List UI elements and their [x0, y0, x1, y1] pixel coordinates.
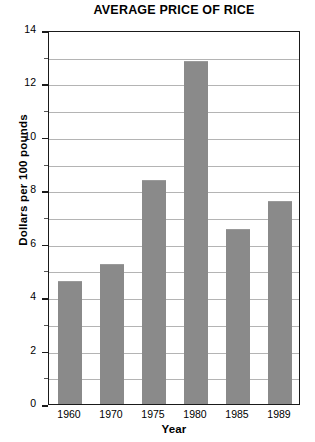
y-tick-label: 8: [30, 184, 36, 195]
x-tick-label-1960: 1960: [57, 408, 80, 420]
bar-1975: [142, 180, 166, 404]
x-tick-label-1975: 1975: [141, 408, 164, 420]
bar-1970: [100, 264, 124, 404]
x-tick-label-1970: 1970: [99, 408, 122, 420]
bar-chart-figure: AVERAGE PRICE OF RICE Dollars per 100 po…: [0, 0, 315, 442]
y-tick-label: 6: [30, 238, 36, 249]
y-tick-mark: [42, 405, 48, 407]
x-tick-label-1985: 1985: [225, 408, 248, 420]
y-axis: 02468101214: [0, 31, 48, 405]
y-tick-label: 12: [24, 77, 36, 88]
bar-1985: [226, 229, 250, 404]
bars-layer: [49, 32, 299, 404]
bar-1980: [184, 61, 208, 404]
y-tick-label: 4: [30, 291, 36, 302]
x-tick-label-1989: 1989: [267, 408, 290, 420]
chart-title: AVERAGE PRICE OF RICE: [48, 3, 300, 18]
y-tick-label: 0: [30, 398, 36, 409]
plot-area: [48, 31, 300, 405]
x-tick-label-1980: 1980: [183, 408, 206, 420]
y-tick-label: 14: [24, 24, 36, 35]
bar-1960: [58, 281, 82, 404]
bar-1989: [268, 201, 292, 404]
x-axis-title: Year: [48, 423, 300, 435]
y-tick-label: 10: [24, 131, 36, 142]
x-axis: 196019701975198019851989: [48, 408, 300, 424]
y-tick-label: 2: [30, 345, 36, 356]
